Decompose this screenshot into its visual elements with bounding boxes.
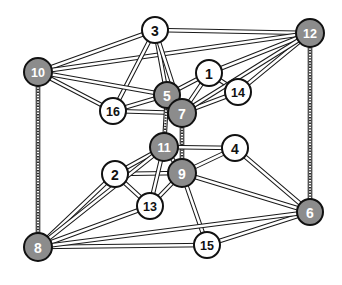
node-circle-4[interactable] bbox=[222, 135, 248, 161]
node-1[interactable]: 1 bbox=[196, 60, 222, 86]
node-7[interactable]: 7 bbox=[168, 99, 196, 127]
lattice-graph-diagram: 12345678910111213141516 bbox=[0, 0, 342, 285]
node-circle-8[interactable] bbox=[24, 233, 52, 261]
graph-canvas: 12345678910111213141516 bbox=[0, 0, 342, 285]
node-2[interactable]: 2 bbox=[102, 161, 128, 187]
node-9[interactable]: 9 bbox=[168, 159, 196, 187]
node-circle-14[interactable] bbox=[225, 79, 251, 105]
node-circle-10[interactable] bbox=[24, 58, 52, 86]
node-circle-11[interactable] bbox=[150, 133, 178, 161]
node-14[interactable]: 14 bbox=[225, 79, 251, 105]
node-13[interactable]: 13 bbox=[137, 193, 163, 219]
node-8[interactable]: 8 bbox=[24, 233, 52, 261]
node-circle-6[interactable] bbox=[297, 199, 323, 225]
edge-3-12 bbox=[155, 30, 310, 33]
edge-9-6 bbox=[182, 173, 310, 212]
node-15[interactable]: 15 bbox=[194, 232, 220, 258]
edge-core bbox=[182, 173, 310, 212]
node-circle-1[interactable] bbox=[196, 60, 222, 86]
node-circle-9[interactable] bbox=[168, 159, 196, 187]
node-circle-15[interactable] bbox=[194, 232, 220, 258]
node-circle-16[interactable] bbox=[100, 98, 126, 124]
node-circle-13[interactable] bbox=[137, 193, 163, 219]
node-circle-3[interactable] bbox=[142, 17, 168, 43]
node-11[interactable]: 11 bbox=[150, 133, 178, 161]
node-circle-2[interactable] bbox=[102, 161, 128, 187]
node-4[interactable]: 4 bbox=[222, 135, 248, 161]
node-10[interactable]: 10 bbox=[24, 58, 52, 86]
node-12[interactable]: 12 bbox=[296, 19, 324, 47]
node-6[interactable]: 6 bbox=[297, 199, 323, 225]
node-circle-7[interactable] bbox=[168, 99, 196, 127]
node-3[interactable]: 3 bbox=[142, 17, 168, 43]
node-circle-12[interactable] bbox=[296, 19, 324, 47]
node-16[interactable]: 16 bbox=[100, 98, 126, 124]
